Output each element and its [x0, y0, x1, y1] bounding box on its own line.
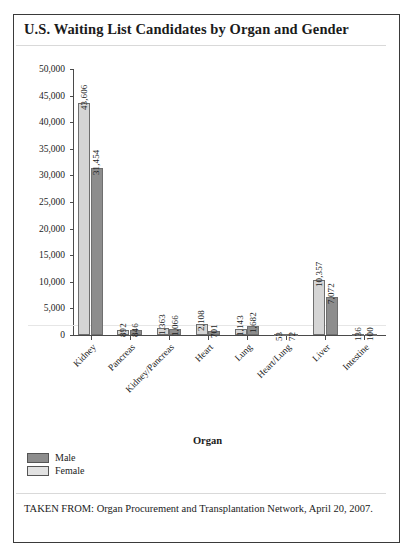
legend-item-female: Female	[27, 464, 84, 477]
bar-value-label: 136	[353, 327, 363, 341]
bar-value-label: 31,454	[91, 149, 101, 174]
x-axis-category-label: Kidney/Pancreas	[98, 342, 176, 420]
x-axis-tick-mark	[208, 336, 209, 340]
bar-value-label: 43,606	[79, 85, 89, 110]
y-axis-tick-mark	[70, 202, 74, 203]
x-axis-tick-mark	[169, 336, 170, 340]
bar-value-label: 2,108	[196, 310, 206, 331]
legend-item-male: Male	[27, 451, 84, 464]
x-axis-tick-mark	[325, 336, 326, 340]
y-axis-tick-mark	[70, 175, 74, 176]
y-axis-tick-label: 40,000	[18, 117, 65, 127]
y-axis-tick-mark	[70, 308, 74, 309]
figure-frame: U.S. Waiting List Candidates by Organ an…	[13, 14, 400, 543]
x-axis-tick-mark	[91, 336, 92, 340]
x-axis-category-label: Heart/Lung	[216, 342, 294, 420]
y-axis-tick-label: 30,000	[18, 170, 65, 180]
bar-value-label: 7,072	[326, 284, 336, 305]
y-axis-tick-mark	[70, 229, 74, 230]
y-axis-tick-mark	[70, 96, 74, 97]
x-axis-category-label: Pancreas	[59, 342, 137, 420]
x-axis-category-label: Intestine	[294, 342, 372, 420]
chart-legend: Male Female	[27, 451, 84, 477]
bar-kidney-male	[78, 103, 90, 335]
x-axis-tick-mark	[130, 336, 131, 340]
source-note: TAKEN FROM: Organ Procurement and Transp…	[24, 501, 386, 516]
bar-value-label: 701	[209, 324, 219, 338]
y-axis-tick-mark	[70, 149, 74, 150]
bar-value-label: 1,363	[157, 314, 167, 335]
bar-value-label: 53	[274, 332, 284, 341]
bar-value-label: 1,143	[235, 315, 245, 336]
legend-swatch-female-icon	[27, 466, 49, 476]
footer-divider	[16, 493, 386, 494]
bar-value-label: 846	[130, 324, 140, 338]
y-axis-tick-label: 10,000	[18, 277, 65, 287]
y-axis-tick-mark	[70, 69, 74, 70]
y-axis-tick-label: 0	[18, 330, 65, 340]
y-axis-tick-label: 5,000	[18, 303, 65, 313]
x-axis-tick-mark	[247, 336, 248, 340]
x-axis-title: Organ	[14, 435, 401, 446]
legend-label-male: Male	[55, 452, 76, 463]
x-axis-category-label: Liver	[255, 342, 333, 420]
bar-value-label: 100	[365, 327, 375, 341]
y-axis-tick-label: 35,000	[18, 144, 65, 154]
y-axis-tick-mark	[70, 282, 74, 283]
bar-value-label: 72	[287, 332, 297, 341]
y-axis-tick-label: 50,000	[18, 64, 65, 74]
bar-value-label: 892	[118, 323, 128, 337]
bar-value-label: 1,682	[248, 312, 258, 333]
bar-kidney-female	[91, 168, 103, 335]
y-axis-tick-label: 25,000	[18, 197, 65, 207]
x-axis-category-label: Lung	[176, 342, 254, 420]
y-axis-tick-mark	[70, 255, 74, 256]
x-axis-tick-mark	[286, 336, 287, 340]
legend-label-female: Female	[55, 465, 84, 476]
bar-liver-male	[313, 280, 325, 335]
x-axis-tick-mark	[364, 336, 365, 340]
y-axis-tick-label: 20,000	[18, 224, 65, 234]
bar-value-label: 10,357	[314, 262, 324, 287]
y-axis-tick-label: 45,000	[18, 91, 65, 101]
x-axis-category-label: Kidney	[20, 342, 98, 420]
x-axis-category-label: Heart	[137, 342, 215, 420]
y-axis-tick-mark	[70, 335, 74, 336]
legend-swatch-male-icon	[27, 453, 49, 463]
y-axis-tick-mark	[70, 122, 74, 123]
y-axis-tick-label: 15,000	[18, 250, 65, 260]
bar-value-label: 1,066	[170, 316, 180, 337]
